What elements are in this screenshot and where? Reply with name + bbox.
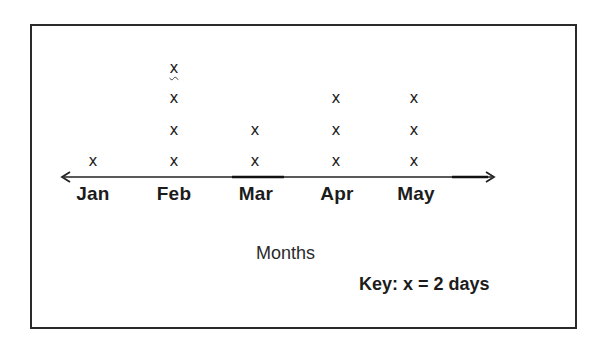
x-marker-apr: x [326,154,346,169]
x-marker-feb: x [164,123,184,138]
x-marker-may: x [404,91,424,106]
x-axis-title: Months [256,243,315,264]
x-marker-mar: x [245,154,265,169]
x-marker-feb: x [164,61,184,76]
month-label-may: May [397,183,435,205]
month-label-mar: Mar [239,183,273,205]
month-label-jan: Jan [76,183,109,205]
number-line-axis [0,0,591,344]
x-marker-mar: x [245,123,265,138]
month-label-apr: Apr [320,183,353,205]
x-marker-apr: x [326,91,346,106]
x-marker-feb: x [164,154,184,169]
x-marker-may: x [404,123,424,138]
x-marker-jan: x [83,154,103,169]
legend-key: Key: x = 2 days [359,274,490,295]
month-label-feb: Feb [157,183,191,205]
x-marker-feb: x [164,91,184,106]
x-marker-may: x [404,154,424,169]
x-marker-apr: x [326,123,346,138]
